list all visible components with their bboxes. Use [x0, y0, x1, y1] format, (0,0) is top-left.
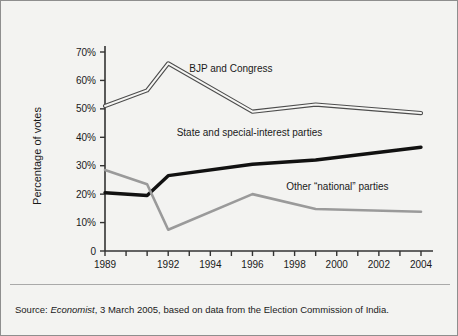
data-series-group	[105, 63, 421, 229]
x-axis-tick-label: 1994	[199, 259, 222, 270]
x-axis-tick-label: 2002	[368, 259, 391, 270]
line-chart-svg: Percentage of votes 010%20%30%40%50%60%7…	[1, 1, 458, 277]
y-axis-tick-label: 0	[90, 246, 96, 257]
y-axis-title-text: Percentage of votes	[31, 107, 43, 205]
x-axis-tick-label: 1992	[157, 259, 180, 270]
x-axis-tick-label: 1998	[283, 259, 306, 270]
source-prefix: Source:	[15, 304, 50, 315]
y-axis-tick-label: 40%	[76, 132, 96, 143]
source-publication: Economist	[50, 304, 94, 315]
source-divider	[10, 284, 450, 285]
y-axis: 010%20%30%40%50%60%70%	[76, 46, 105, 257]
y-axis-title: Percentage of votes	[31, 107, 43, 205]
series-label-0: BJP and Congress	[189, 63, 272, 74]
x-axis: 19891992199419961998200020022004	[94, 251, 433, 270]
series-label-2: Other “national” parties	[286, 181, 388, 192]
y-axis-tick-label: 20%	[76, 189, 96, 200]
chart-figure: Percentage of votes 010%20%30%40%50%60%7…	[0, 0, 458, 336]
y-axis-tick-label: 70%	[76, 47, 96, 58]
source-note: Source: Economist, 3 March 2005, based o…	[15, 304, 447, 316]
series-label-group: BJP and CongressState and special-intere…	[177, 63, 389, 192]
source-rest: , 3 March 2005, based on data from the E…	[95, 304, 389, 315]
series-label-1: State and special-interest parties	[177, 127, 323, 138]
y-axis-tick-label: 30%	[76, 160, 96, 171]
x-axis-tick-label: 1989	[94, 259, 117, 270]
plot-area: Percentage of votes 010%20%30%40%50%60%7…	[1, 1, 458, 277]
x-axis-tick-label: 2000	[326, 259, 349, 270]
series-line-2	[105, 170, 421, 230]
y-axis-tick-label: 10%	[76, 217, 96, 228]
y-axis-tick-label: 50%	[76, 103, 96, 114]
y-axis-tick-label: 60%	[76, 75, 96, 86]
x-axis-tick-label: 2004	[410, 259, 433, 270]
x-axis-tick-label: 1996	[241, 259, 264, 270]
